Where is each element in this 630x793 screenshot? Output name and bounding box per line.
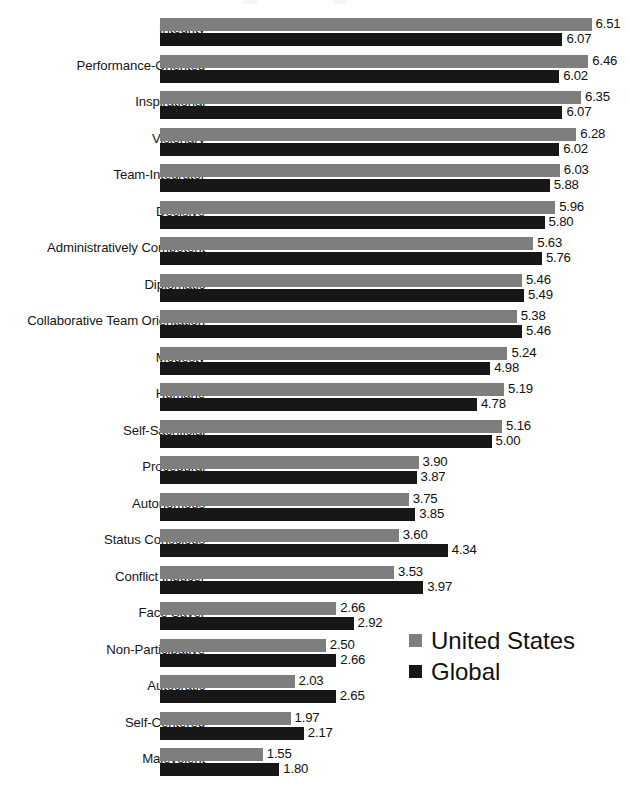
bar-value-label: 5.63 xyxy=(537,236,562,249)
bar-global[interactable] xyxy=(160,179,550,192)
bar-value-label: 4.78 xyxy=(481,397,506,410)
bar-global[interactable] xyxy=(160,690,336,703)
bar-united-states[interactable] xyxy=(160,712,291,725)
bar-group: 6.286.02 xyxy=(0,126,630,159)
bar-global[interactable] xyxy=(160,33,562,46)
bar-global[interactable] xyxy=(160,435,492,448)
bar-united-states[interactable] xyxy=(160,201,555,214)
bar-value-label: 3.85 xyxy=(419,507,444,520)
chart-row: Team-Integrator6.035.88 xyxy=(0,162,630,195)
bar-value-label: 1.80 xyxy=(283,762,308,775)
chart-row: Diplomatic5.465.49 xyxy=(0,272,630,305)
leadership-attributes-bar-chart: Integrity6.516.07Performance-Oriented6.4… xyxy=(0,0,630,793)
legend-swatch-icon-global xyxy=(409,665,422,678)
bar-global[interactable] xyxy=(160,325,522,338)
bar-united-states[interactable] xyxy=(160,493,409,506)
legend-item-united-states[interactable]: United States xyxy=(409,625,624,656)
bar-united-states[interactable] xyxy=(160,602,336,615)
chart-row: Conflict Inducer3.533.97 xyxy=(0,564,630,597)
bar-united-states[interactable] xyxy=(160,456,419,469)
bar-global[interactable] xyxy=(160,581,423,594)
bar-group: 5.465.49 xyxy=(0,272,630,305)
bar-global[interactable] xyxy=(160,471,417,484)
chart-row: Performance-Oriented6.466.02 xyxy=(0,53,630,86)
bar-value-label: 3.53 xyxy=(398,565,423,578)
bar-group: 6.516.07 xyxy=(0,16,630,49)
bar-united-states[interactable] xyxy=(160,566,394,579)
bar-global[interactable] xyxy=(160,727,304,740)
bar-value-label: 2.50 xyxy=(330,638,355,651)
bar-united-states[interactable] xyxy=(160,639,326,652)
bar-global[interactable] xyxy=(160,398,477,411)
legend-label-united-states: United States xyxy=(431,628,575,654)
chart-row: Malevolent1.551.80 xyxy=(0,746,630,779)
bar-united-states[interactable] xyxy=(160,310,517,323)
bar-group: 6.356.07 xyxy=(0,89,630,122)
bar-value-label: 6.03 xyxy=(564,163,589,176)
bar-global[interactable] xyxy=(160,508,415,521)
chart-row: Visionary6.286.02 xyxy=(0,126,630,159)
bar-value-label: 3.75 xyxy=(413,492,438,505)
bar-united-states[interactable] xyxy=(160,347,507,360)
bar-united-states[interactable] xyxy=(160,128,576,141)
chart-row: Status Conscious3.604.34 xyxy=(0,527,630,560)
bar-value-label: 6.07 xyxy=(566,105,591,118)
chart-legend: United States Global xyxy=(409,625,624,687)
bar-value-label: 5.80 xyxy=(549,215,574,228)
bar-value-label: 5.19 xyxy=(508,382,533,395)
bar-global[interactable] xyxy=(160,763,279,776)
bar-global[interactable] xyxy=(160,362,490,375)
bar-united-states[interactable] xyxy=(160,18,592,31)
bar-group: 5.635.76 xyxy=(0,235,630,268)
bar-value-label: 3.87 xyxy=(421,470,446,483)
bar-group: 3.753.85 xyxy=(0,491,630,524)
bar-united-states[interactable] xyxy=(160,420,502,433)
chart-row: Integrity6.516.07 xyxy=(0,16,630,49)
bar-united-states[interactable] xyxy=(160,274,522,287)
bar-value-label: 5.46 xyxy=(526,273,551,286)
bar-value-label: 6.28 xyxy=(580,127,605,140)
chart-row: Collaborative Team Orientation5.385.46 xyxy=(0,308,630,341)
bar-global[interactable] xyxy=(160,654,336,667)
bar-group: 6.466.02 xyxy=(0,53,630,86)
bar-value-label: 1.97 xyxy=(295,711,320,724)
bar-group: 5.965.80 xyxy=(0,199,630,232)
bar-group: 3.604.34 xyxy=(0,527,630,560)
bar-value-label: 5.16 xyxy=(506,419,531,432)
bar-united-states[interactable] xyxy=(160,91,581,104)
bar-group: 3.903.87 xyxy=(0,454,630,487)
bar-group: 3.533.97 xyxy=(0,564,630,597)
chart-row: Inspirational6.356.07 xyxy=(0,89,630,122)
bar-global[interactable] xyxy=(160,143,559,156)
bar-value-label: 5.24 xyxy=(511,346,536,359)
bar-value-label: 6.46 xyxy=(592,54,617,67)
bar-global[interactable] xyxy=(160,289,524,302)
chart-row: Self-Centered1.972.17 xyxy=(0,710,630,743)
chart-row: Autonomous3.753.85 xyxy=(0,491,630,524)
legend-item-global[interactable]: Global xyxy=(409,656,624,687)
chart-row: Humane5.194.78 xyxy=(0,381,630,414)
bar-united-states[interactable] xyxy=(160,529,399,542)
bar-group: 5.244.98 xyxy=(0,345,630,378)
bar-value-label: 2.92 xyxy=(358,616,383,629)
chart-row: Decisive5.965.80 xyxy=(0,199,630,232)
bar-value-label: 2.65 xyxy=(340,689,365,702)
bar-global[interactable] xyxy=(160,216,545,229)
bar-global[interactable] xyxy=(160,106,562,119)
bar-global[interactable] xyxy=(160,252,542,265)
bar-united-states[interactable] xyxy=(160,748,263,761)
bar-group: 6.035.88 xyxy=(0,162,630,195)
bar-united-states[interactable] xyxy=(160,675,295,688)
chart-row: Procedural3.903.87 xyxy=(0,454,630,487)
bar-united-states[interactable] xyxy=(160,55,588,68)
bar-united-states[interactable] xyxy=(160,383,504,396)
bar-value-label: 2.66 xyxy=(340,653,365,666)
bar-value-label: 5.49 xyxy=(528,288,553,301)
bar-value-label: 5.00 xyxy=(496,434,521,447)
bar-global[interactable] xyxy=(160,70,559,83)
bar-united-states[interactable] xyxy=(160,164,560,177)
bar-global[interactable] xyxy=(160,617,354,630)
bar-value-label: 5.46 xyxy=(526,324,551,337)
bar-global[interactable] xyxy=(160,544,448,557)
bar-united-states[interactable] xyxy=(160,237,533,250)
